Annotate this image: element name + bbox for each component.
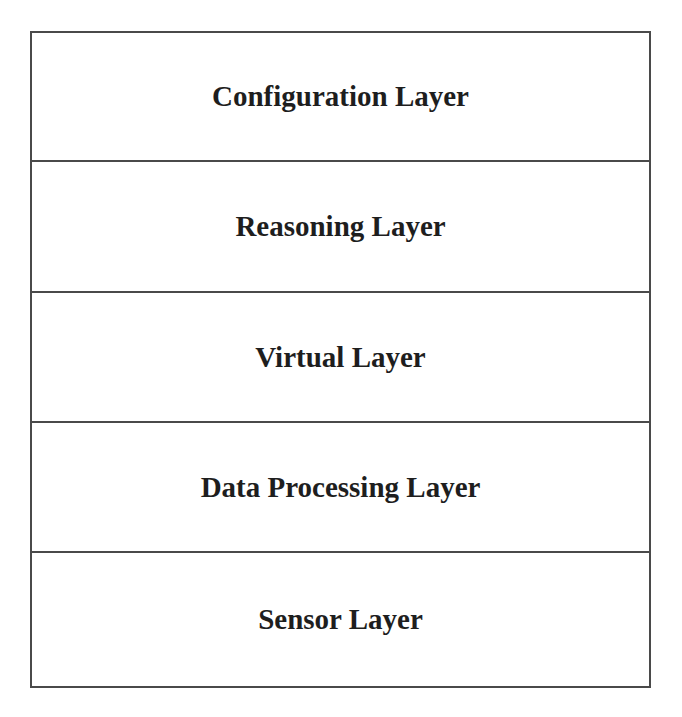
layer-stack-diagram: Configuration Layer Reasoning Layer Virt… [30,31,651,688]
layer-label: Reasoning Layer [235,210,445,243]
data-processing-layer: Data Processing Layer [32,423,649,553]
layer-label: Sensor Layer [258,603,423,636]
layer-label: Configuration Layer [212,80,469,113]
sensor-layer: Sensor Layer [32,553,649,686]
layer-label: Virtual Layer [255,341,425,374]
layer-label: Data Processing Layer [201,471,481,504]
virtual-layer: Virtual Layer [32,293,649,423]
reasoning-layer: Reasoning Layer [32,162,649,293]
configuration-layer: Configuration Layer [32,33,649,162]
